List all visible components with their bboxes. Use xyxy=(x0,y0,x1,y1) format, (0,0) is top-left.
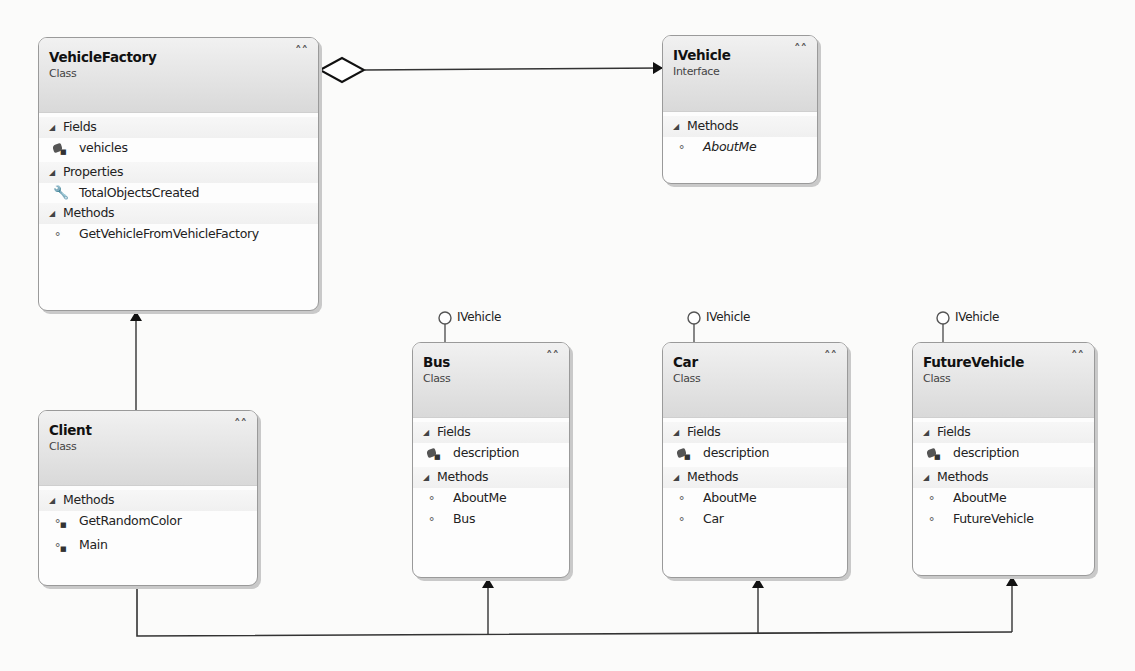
section-methods[interactable]: ◢Methods xyxy=(913,467,1094,488)
interface-label-bus: IVehicle xyxy=(457,310,501,324)
member-method[interactable]: ⚬AboutMe xyxy=(913,488,1094,509)
class-header: FutureVehicle Class ˄˄ xyxy=(913,343,1094,418)
class-header: Car Class ˄˄ xyxy=(663,343,847,418)
section-methods[interactable]: ◢Methods xyxy=(663,116,817,137)
class-bus[interactable]: Bus Class ˄˄ ◢Fields ■description ◢Metho… xyxy=(412,342,570,578)
method-icon: ⚬ xyxy=(53,225,79,245)
section-methods[interactable]: ◢Methods xyxy=(663,467,847,488)
aggregation-diamond-icon xyxy=(320,58,364,82)
section-methods[interactable]: ◢Methods xyxy=(413,467,569,488)
association-client-to-vehicles[interactable] xyxy=(137,577,1012,636)
member-field[interactable]: ■description xyxy=(413,443,569,467)
method-icon: ⚬ xyxy=(677,510,703,530)
section-fields[interactable]: ◢Fields xyxy=(413,422,569,443)
member-field[interactable]: ■vehicles xyxy=(39,138,318,162)
class-name: FutureVehicle xyxy=(923,353,1084,371)
method-icon: ⚬ xyxy=(427,489,453,509)
member-method[interactable]: ⚬AboutMe xyxy=(413,488,569,509)
property-wrench-icon: 🔧 xyxy=(53,183,79,203)
expanded-triangle-icon: ◢ xyxy=(423,468,437,488)
class-header: Bus Class ˄˄ xyxy=(413,343,569,418)
class-vehiclefactory[interactable]: VehicleFactory Class ˄˄ ◢Fields ■vehicle… xyxy=(38,37,319,311)
section-fields[interactable]: ◢Fields xyxy=(913,422,1094,443)
method-icon: ⚬ xyxy=(927,510,953,530)
member-method[interactable]: ⚬FutureVehicle xyxy=(913,509,1094,530)
class-header: IVehicle Interface ˄˄ xyxy=(663,36,817,112)
private-field-icon: ■ xyxy=(427,444,453,467)
member-method[interactable]: ⚬GetVehicleFromVehicleFactory xyxy=(39,224,318,245)
class-name: Client xyxy=(49,421,247,439)
class-name: Car xyxy=(673,353,837,371)
lollipop-bus-icon xyxy=(439,312,451,342)
member-method[interactable]: ⚬Car xyxy=(663,509,847,530)
method-icon: ⚬ xyxy=(677,138,703,158)
class-header: VehicleFactory Class ˄˄ xyxy=(39,38,318,113)
method-icon: ⚬ xyxy=(677,489,703,509)
member-method[interactable]: ⚬AboutMe xyxy=(663,137,817,158)
section-properties[interactable]: ◢Properties xyxy=(39,162,318,183)
expanded-triangle-icon: ◢ xyxy=(49,118,63,138)
member-method[interactable]: ⚬■GetRandomColor xyxy=(39,511,257,535)
expanded-triangle-icon: ◢ xyxy=(673,423,687,443)
member-field[interactable]: ■description xyxy=(913,443,1094,467)
class-name: VehicleFactory xyxy=(49,48,308,66)
member-property[interactable]: 🔧TotalObjectsCreated xyxy=(39,183,318,203)
lollipop-car-icon xyxy=(688,312,700,342)
class-name: Bus xyxy=(423,353,559,371)
class-stereotype: Class xyxy=(49,439,247,455)
interface-ivehicle[interactable]: IVehicle Interface ˄˄ ◢Methods ⚬AboutMe xyxy=(662,35,818,184)
collapse-chevron-icon[interactable]: ˄˄ xyxy=(234,417,247,431)
interface-label-car: IVehicle xyxy=(706,310,750,324)
member-method[interactable]: ⚬AboutMe xyxy=(663,488,847,509)
member-method[interactable]: ⚬Bus xyxy=(413,509,569,530)
expanded-triangle-icon: ◢ xyxy=(423,423,437,443)
section-fields[interactable]: ◢Fields xyxy=(663,422,847,443)
expanded-triangle-icon: ◢ xyxy=(49,163,63,183)
collapse-chevron-icon[interactable]: ˄˄ xyxy=(1071,349,1084,363)
expanded-triangle-icon: ◢ xyxy=(49,204,63,224)
class-stereotype: Class xyxy=(673,371,837,387)
collapse-chevron-icon[interactable]: ˄˄ xyxy=(295,44,308,58)
collapse-chevron-icon[interactable]: ˄˄ xyxy=(546,349,559,363)
class-client[interactable]: Client Class ˄˄ ◢Methods ⚬■GetRandomColo… xyxy=(38,410,258,586)
aggregation-connector[interactable] xyxy=(320,58,662,82)
class-stereotype: Class xyxy=(923,371,1084,387)
section-methods[interactable]: ◢Methods xyxy=(39,490,257,511)
class-car[interactable]: Car Class ˄˄ ◢Fields ■description ◢Metho… xyxy=(662,342,848,578)
expanded-triangle-icon: ◢ xyxy=(49,491,63,511)
class-name: IVehicle xyxy=(673,46,807,64)
class-stereotype: Class xyxy=(423,371,559,387)
class-stereotype: Class xyxy=(49,66,308,82)
member-field[interactable]: ■description xyxy=(663,443,847,467)
class-stereotype: Interface xyxy=(673,64,807,80)
private-method-icon: ⚬■ xyxy=(53,512,79,535)
private-field-icon: ■ xyxy=(927,444,953,467)
expanded-triangle-icon: ◢ xyxy=(673,468,687,488)
class-futurevehicle[interactable]: FutureVehicle Class ˄˄ ◢Fields ■descript… xyxy=(912,342,1095,576)
method-icon: ⚬ xyxy=(927,489,953,509)
section-methods[interactable]: ◢Methods xyxy=(39,203,318,224)
expanded-triangle-icon: ◢ xyxy=(923,423,937,443)
interface-label-futurevehicle: IVehicle xyxy=(955,310,999,324)
collapse-chevron-icon[interactable]: ˄˄ xyxy=(824,349,837,363)
private-field-icon: ■ xyxy=(53,139,79,162)
method-icon: ⚬ xyxy=(427,510,453,530)
expanded-triangle-icon: ◢ xyxy=(923,468,937,488)
private-method-icon: ⚬■ xyxy=(53,536,79,559)
private-field-icon: ■ xyxy=(677,444,703,467)
member-method[interactable]: ⚬■Main xyxy=(39,535,257,559)
class-header: Client Class ˄˄ xyxy=(39,411,257,486)
expanded-triangle-icon: ◢ xyxy=(673,117,687,137)
collapse-chevron-icon[interactable]: ˄˄ xyxy=(794,42,807,56)
section-fields[interactable]: ◢Fields xyxy=(39,117,318,138)
lollipop-futurevehicle-icon xyxy=(937,312,949,342)
